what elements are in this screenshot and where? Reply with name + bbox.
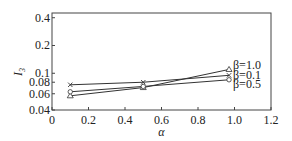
x-axis-title: α <box>158 125 165 139</box>
circle-marker-icon <box>68 90 72 94</box>
circle-marker-icon <box>141 84 145 88</box>
series-line <box>70 75 229 84</box>
y-axis-title: I3 <box>11 68 27 77</box>
x-tick-label: 1.0 <box>227 113 242 127</box>
chart-container: 00.20.40.60.81.01.20.040.060.080.10.20.4… <box>0 0 292 141</box>
series-label: β=0.5 <box>233 77 261 91</box>
y-tick-label: 0.04 <box>29 103 50 117</box>
y-tick-label: 0.1 <box>35 66 50 80</box>
x-tick-label: 0.8 <box>191 113 206 127</box>
y-tick-label: 0.2 <box>35 38 50 52</box>
x-tick-label: 1.2 <box>264 113 279 127</box>
triangle-marker-icon <box>226 66 232 71</box>
y-tick-label: 0.4 <box>35 11 50 25</box>
circle-marker-icon <box>227 78 231 82</box>
series-line <box>70 69 229 95</box>
x-tick-label: 0.4 <box>118 113 133 127</box>
x-tick-label: 0.2 <box>81 113 96 127</box>
line-chart: 00.20.40.60.81.01.20.040.060.080.10.20.4… <box>0 0 292 141</box>
